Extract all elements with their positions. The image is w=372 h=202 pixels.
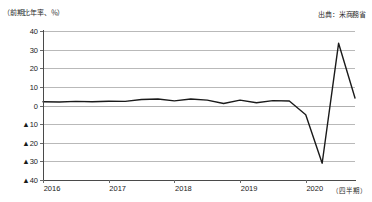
data-series-line bbox=[43, 31, 355, 180]
y-tick-mark bbox=[40, 143, 43, 144]
y-tick-mark bbox=[40, 106, 43, 107]
y-tick-label-10: 10 bbox=[2, 82, 38, 91]
y-axis-line bbox=[43, 30, 44, 181]
x-tick-mark bbox=[174, 180, 175, 183]
plot-area bbox=[43, 31, 355, 180]
x-tick-label-2017: 2017 bbox=[109, 184, 126, 193]
y-tick-label-30: 30 bbox=[2, 45, 38, 54]
x-tick-mark bbox=[109, 180, 110, 183]
y-tick-label-▲10: ▲10 bbox=[2, 120, 38, 129]
y-axis-unit-label: （前期比年率、％） bbox=[3, 7, 64, 17]
y-tick-mark bbox=[40, 68, 43, 69]
x-tick-label-2016: 2016 bbox=[44, 184, 61, 193]
x-axis-unit-label: （四半期） bbox=[332, 185, 367, 195]
chart-container: （前期比年率、％） 出典：米商務省 403020100▲10▲20▲30▲40 … bbox=[0, 0, 372, 202]
x-axis-line bbox=[43, 180, 356, 181]
y-tick-mark bbox=[40, 87, 43, 88]
x-tick-label-2020: 2020 bbox=[306, 184, 323, 193]
source-note: 出典：米商務省 bbox=[318, 9, 366, 19]
x-tick-mark bbox=[306, 180, 307, 183]
y-tick-mark bbox=[40, 31, 43, 32]
y-tick-mark bbox=[40, 50, 43, 51]
y-tick-label-0: 0 bbox=[2, 101, 38, 110]
y-tick-mark bbox=[40, 161, 43, 162]
y-tick-label-20: 20 bbox=[2, 64, 38, 73]
y-tick-label-▲40: ▲40 bbox=[2, 176, 38, 185]
x-tick-mark bbox=[43, 180, 44, 183]
y-tick-mark bbox=[40, 124, 43, 125]
series-line-gdp bbox=[43, 43, 355, 163]
y-tick-label-▲30: ▲30 bbox=[2, 157, 38, 166]
x-tick-label-2018: 2018 bbox=[175, 184, 192, 193]
x-tick-mark bbox=[240, 180, 241, 183]
y-tick-label-40: 40 bbox=[2, 27, 38, 36]
y-tick-label-▲20: ▲20 bbox=[2, 138, 38, 147]
x-tick-label-2019: 2019 bbox=[241, 184, 258, 193]
